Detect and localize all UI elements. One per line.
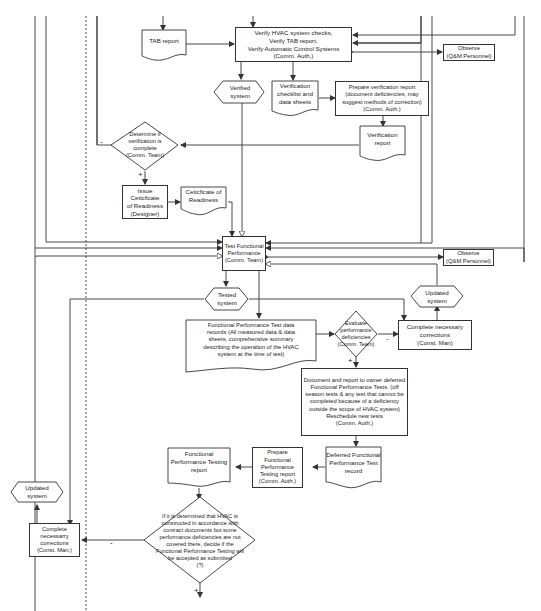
complete-corrections-left-process: Complete necessarry corrections (Const. … xyxy=(29,523,80,557)
verification-report-text: Verification report xyxy=(367,131,397,147)
certificate-readiness-text: Ceticficate of Readiness xyxy=(186,188,222,204)
determine-verification-decision: Determine if verification is complete (C… xyxy=(118,128,172,162)
fpt-data-records-document: Functional Performance Test data records… xyxy=(186,322,316,358)
determine-yes-label: + xyxy=(138,170,143,179)
tested-system-hexagon: Tested system xyxy=(212,290,242,308)
updated-system-right-hexagon: Updated system xyxy=(420,288,454,306)
prepare-fpt-report-text: Prepare Functional Performance Testing r… xyxy=(259,449,296,485)
decide-yes-label: + xyxy=(194,586,199,595)
decide-no-label: - xyxy=(110,538,113,547)
updated-system-left-hexagon: Updated system xyxy=(18,483,56,501)
tested-system-text: Tested system xyxy=(217,291,237,307)
updated-system-right-text: Updated system xyxy=(425,289,448,305)
evaluate-deficiencies-text: Evaluate performance deficiencies (Comm.… xyxy=(338,320,375,348)
fpt-report-document: Functional Performance Testing report xyxy=(168,450,230,474)
complete-corrections-right-process: Complete necessary corrections (Const. M… xyxy=(398,320,472,350)
evaluate-no-label: - xyxy=(386,334,389,343)
complete-corrections-left-text: Complete necessarry corrections (Const. … xyxy=(37,526,72,555)
decide-acceptance-text: If it is determined that HVAC is constru… xyxy=(156,513,244,569)
decide-acceptance-decision: If it is determined that HVAC is constru… xyxy=(148,510,252,572)
certificate-readiness-document: Ceticficate of Readiness xyxy=(181,188,226,204)
connector-lines xyxy=(0,0,541,611)
issue-certificate-process: Issue Ceticficate of Readiness (Designer… xyxy=(122,185,168,219)
verify-hvac-text: Verify HVAC system checks, Verify TAB re… xyxy=(248,29,339,60)
verified-system-text: Verified system xyxy=(230,84,251,100)
observe-qm-personnel-2: Observe (Q&M Personnel) xyxy=(443,249,494,266)
document-deferred-tests-process: Document and report to owner deferred Fu… xyxy=(301,368,408,436)
fpt-report-text: Functional Performance Testing report xyxy=(171,450,228,473)
deferred-record-text: Deferred Functional Performance Test rec… xyxy=(326,451,380,474)
deferred-record-document: Deferred Functional Performance Test rec… xyxy=(326,450,381,476)
determine-no-label: - xyxy=(100,137,103,146)
verified-system-hexagon: Verified system xyxy=(222,83,258,101)
tab-report-document: TAB report xyxy=(142,32,186,50)
verify-hvac-process: Verify HVAC system checks, Verify TAB re… xyxy=(235,27,352,62)
test-functional-performance-process: Test Functional Performance (Comm. Team) xyxy=(222,236,266,271)
observe-2-text: Observe (Q&M Personnel) xyxy=(446,250,491,264)
fpt-data-records-text: Functional Performance Test data records… xyxy=(203,322,298,358)
evaluate-deficiencies-decision: Evaluate performance deficiencies (Comm.… xyxy=(336,318,376,350)
updated-system-left-text: Updated system xyxy=(25,484,48,500)
observe-qm-personnel-1: Observe (Q&M Personnel) xyxy=(443,44,495,61)
verification-checklist-text: Verification checklist and data sheets xyxy=(277,82,313,105)
determine-verification-text: Determine if verification is complete (C… xyxy=(126,131,164,160)
document-deferred-text: Document and report to owner deferred Fu… xyxy=(304,377,406,428)
evaluate-yes-label: + xyxy=(348,356,353,365)
prepare-verification-report-process: Prepare verification report (document de… xyxy=(335,81,429,116)
verification-checklist-document: Verification checklist and data sheets xyxy=(272,83,318,105)
tab-report-text: TAB report xyxy=(149,37,178,45)
test-functional-text: Test Functional Performance (Comm. Team) xyxy=(225,243,264,265)
verification-report-document: Verification report xyxy=(360,130,405,148)
issue-certificate-text: Issue Ceticficate of Readiness (Designer… xyxy=(123,187,167,218)
complete-corrections-right-text: Complete necessary corrections (Const. M… xyxy=(407,323,463,346)
prepare-verification-text: Prepare verification report (document de… xyxy=(342,84,422,113)
observe-1-text: Observe (Q&M Personnel) xyxy=(447,45,492,59)
prepare-fpt-report-process: Prepare Functional Performance Testing r… xyxy=(252,447,303,488)
